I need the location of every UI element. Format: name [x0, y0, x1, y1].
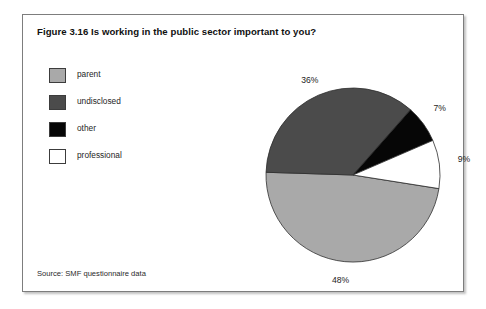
- pie-chart: 48% 36% 7% 9%: [203, 55, 455, 280]
- legend-item-parent: parent: [49, 67, 209, 94]
- legend-item-undisclosed: undisclosed: [49, 94, 209, 121]
- legend-swatch-professional: [49, 149, 66, 164]
- legend-label-other: other: [77, 123, 96, 133]
- legend-item-professional: professional: [49, 148, 209, 175]
- chart-legend: parent undisclosed other professional: [49, 67, 209, 175]
- legend-item-other: other: [49, 121, 209, 148]
- legend-swatch-other: [49, 122, 66, 137]
- legend-label-parent: parent: [77, 69, 101, 79]
- pie-value-label-other: 7%: [433, 103, 445, 113]
- legend-swatch-parent: [49, 68, 66, 83]
- pie-value-label-professional: 9%: [458, 154, 470, 164]
- legend-swatch-undisclosed: [49, 95, 66, 110]
- pie-value-label-parent: 48%: [332, 275, 349, 285]
- pie-chart-svg: [203, 55, 455, 280]
- page-title: Figure 3.16 Is working in the public sec…: [37, 26, 447, 37]
- source-note: Source: SMF questionnaire data: [37, 269, 146, 278]
- pie-slice-parent: [266, 172, 439, 262]
- legend-label-professional: professional: [77, 150, 122, 160]
- legend-label-undisclosed: undisclosed: [77, 96, 121, 106]
- figure-container: Figure 3.16 Is working in the public sec…: [22, 14, 464, 292]
- pie-value-label-undisclosed: 36%: [301, 75, 318, 85]
